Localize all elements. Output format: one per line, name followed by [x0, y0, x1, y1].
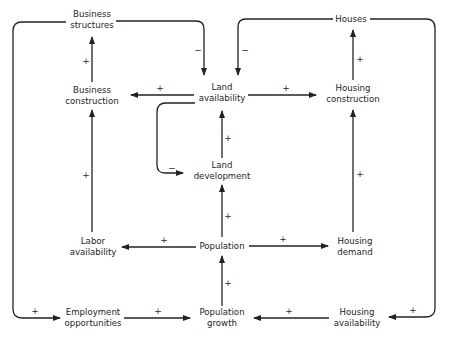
sign-population-to-labor: +: [160, 236, 168, 245]
edge-business-structures-to-employment-opportunities: [13, 22, 66, 318]
node-label-line2: availability: [70, 247, 117, 258]
node-housing-availability: Housing availability: [332, 307, 383, 329]
node-label-line1: Business: [65, 85, 118, 96]
edge-houses-to-land-availability: [238, 19, 333, 75]
node-business-construction: Business construction: [63, 85, 120, 107]
causal-loop-diagram: Business structures Houses Business cons…: [0, 0, 449, 340]
node-population-growth: Population growth: [197, 307, 246, 329]
sign-land-to-housing-construction: +: [282, 84, 290, 93]
sign-business-construction-to-structures: +: [82, 57, 90, 66]
node-label-line1: Employment: [64, 307, 121, 318]
edge-business-structures-to-land-availability: [116, 21, 204, 75]
sign-housing-demand-to-housing-construction: +: [356, 170, 364, 179]
sign-land-to-business-construction: +: [156, 84, 164, 93]
sign-population-to-housing-demand: +: [279, 235, 287, 244]
sign-labor-to-business-construction: +: [82, 171, 90, 180]
sign-housing-construction-to-houses: +: [356, 55, 364, 64]
sign-business-structures-to-employment: +: [31, 307, 39, 316]
node-housing-demand: Housing demand: [335, 236, 374, 258]
edge-land-availability-to-land-development: [157, 103, 195, 173]
node-label-line1: Land: [194, 160, 251, 171]
node-business-structures: Business structures: [68, 9, 115, 31]
node-label-line1: Housing: [337, 236, 372, 247]
node-label-line1: Labor: [70, 236, 117, 247]
node-land-development: Land development: [192, 160, 253, 182]
edge-houses-to-housing-availability: [370, 19, 435, 317]
node-houses: Houses: [333, 14, 368, 25]
node-label-line1: Land: [199, 82, 246, 93]
node-label-line2: development: [194, 171, 251, 182]
node-label-line2: demand: [337, 247, 372, 258]
node-label-line2: availability: [334, 318, 381, 329]
node-population: Population: [197, 241, 246, 252]
sign-land-to-land-development: −: [168, 164, 176, 173]
node-label-line2: structures: [70, 20, 113, 31]
node-housing-construction: Housing construction: [324, 83, 381, 105]
node-label-line1: Houses: [335, 14, 366, 25]
sign-land-development-to-land: +: [224, 134, 232, 143]
sign-population-to-land-development: +: [224, 212, 232, 221]
sign-houses-to-housing-availability: +: [409, 306, 417, 315]
node-land-availability: Land availability: [197, 82, 248, 104]
sign-population-growth-to-population: +: [224, 279, 232, 288]
sign-employment-to-population-growth: +: [154, 307, 162, 316]
node-label-line1: Population: [199, 307, 244, 318]
node-label-line1: Population: [199, 241, 244, 252]
sign-houses-to-land: −: [241, 46, 249, 55]
sign-housing-availability-to-population-growth: +: [285, 307, 293, 316]
node-label-line2: availability: [199, 93, 246, 104]
node-labor-availability: Labor availability: [68, 236, 119, 258]
node-label-line2: growth: [199, 318, 244, 329]
node-employment-opportunities: Employment opportunities: [62, 307, 123, 329]
node-label-line1: Housing: [326, 83, 379, 94]
node-label-line1: Housing: [334, 307, 381, 318]
node-label-line2: opportunities: [64, 318, 121, 329]
node-label-line2: construction: [326, 94, 379, 105]
sign-business-structures-to-land: −: [194, 46, 202, 55]
node-label-line2: construction: [65, 96, 118, 107]
node-label-line1: Business: [70, 9, 113, 20]
